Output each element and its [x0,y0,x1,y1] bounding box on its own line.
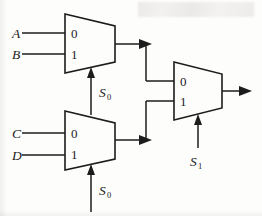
mux-bottom-port-1-label: 1 [71,147,78,162]
label-select-s1-right-subscript: 1 [198,161,202,171]
arrowhead-circuit-output [239,86,252,96]
arrowhead-select-s1-right [194,114,202,125]
label-select-s1-right-base: S [190,154,197,169]
label-input-d: D [11,148,22,163]
figure-canvas: 0 1 0 1 0 1 [0,0,262,216]
mux-right-port-1-label: 1 [180,94,187,109]
mux-top-body [65,14,115,73]
label-select-s0-bottom-subscript: 0 [107,190,111,200]
mux-right-port-0-label: 0 [180,74,187,89]
mux-bottom-port-0-label: 0 [71,126,78,141]
label-select-s0-top-subscript: 0 [107,92,111,102]
label-input-a: A [11,26,21,41]
mux-circuit-diagram: 0 1 0 1 0 1 [0,0,262,216]
label-select-s0-bottom-base: S [99,183,106,198]
mux-top-port-1-label: 1 [71,47,78,62]
mux-right-body [174,62,222,120]
mux-top-port-0-label: 0 [71,26,78,41]
label-input-c: C [12,126,22,141]
label-select-s0-top-base: S [99,85,106,100]
label-input-b: B [12,47,20,62]
